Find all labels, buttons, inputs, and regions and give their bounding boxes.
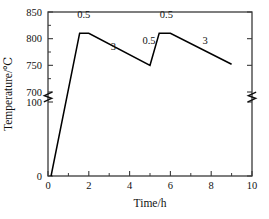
annotation-cooling-first: 3 — [111, 41, 116, 52]
annotation-reheat-segment: 0.5 — [142, 35, 155, 46]
y-tick-label: 700 — [26, 87, 42, 98]
x-tick-label: 4 — [127, 180, 133, 191]
annotation-hold-first-peak: 0.5 — [77, 9, 90, 20]
x-tick-label: 2 — [86, 180, 91, 191]
data-line-heat-treatment-profile — [51, 33, 232, 176]
y-axis-label: Temperature/℃ — [2, 57, 15, 131]
x-tick-label: 8 — [209, 180, 214, 191]
annotation-hold-second-peak: 0.5 — [160, 9, 173, 20]
x-axis-label: Time/h — [134, 197, 167, 209]
y-tick-label: 750 — [26, 60, 42, 71]
y-tick-label: 800 — [26, 33, 42, 44]
x-tick-label: 10 — [247, 180, 258, 191]
temperature-time-plot: 024681001007007508008501.50.530.50.53Tim… — [0, 0, 269, 219]
y-tick-label: 850 — [26, 7, 42, 18]
x-tick-label: 0 — [45, 180, 50, 191]
axis-break-icon — [248, 92, 255, 101]
chart-figure: 024681001007007508008501.50.530.50.53Tim… — [0, 0, 269, 219]
x-tick-label: 6 — [168, 180, 173, 191]
annotation-cooling-second: 3 — [202, 35, 207, 46]
axis-break-icon — [44, 92, 51, 101]
y-tick-label: 100 — [26, 97, 42, 108]
y-tick-label: 0 — [37, 171, 42, 182]
